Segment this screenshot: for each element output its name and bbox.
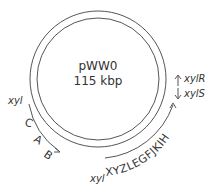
xylR-arrow-up-icon <box>175 75 181 86</box>
meta-operon-prefix: xyl <box>89 173 105 184</box>
xylS-arrow-down-icon <box>175 88 181 99</box>
plasmid-size: 115 kbp <box>74 74 123 88</box>
meta-operon-genes: XYZLEGFJKIH <box>104 131 172 179</box>
gene-C: C <box>23 116 35 131</box>
plasmid-map: pWW0 115 kbp xyl C A B xyl XYZLEGFJKIH x… <box>0 0 215 196</box>
regulator-xylS: xylS <box>183 88 206 99</box>
gene-B: B <box>41 148 55 163</box>
plasmid-name: pWW0 <box>79 59 118 73</box>
lower-operon-prefix: xyl <box>7 95 23 106</box>
gene-A: A <box>32 132 45 147</box>
regulator-xylR: xylR <box>183 73 206 84</box>
